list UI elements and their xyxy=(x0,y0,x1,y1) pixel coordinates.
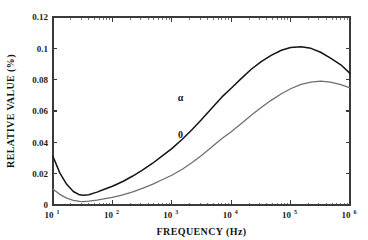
y-axis-title: RELATIVE VALUE (%) xyxy=(5,54,17,168)
x-tick-label-exponent: 1 xyxy=(57,209,60,215)
x-tick-label-exponent: 2 xyxy=(116,209,119,215)
y-tick-label: 0.02 xyxy=(32,169,48,179)
relative-value-vs-frequency-chart: 101102103104105106 00.020.040.060.080.10… xyxy=(0,0,368,240)
x-tick-label-exponent: 3 xyxy=(175,209,178,215)
x-tick-label-base: 10 xyxy=(342,210,352,220)
x-tick-label-exponent: 4 xyxy=(235,209,238,215)
x-axis-title: FREQUENCY (Hz) xyxy=(157,226,247,238)
y-tick-label: 0.04 xyxy=(32,138,48,148)
x-tick-label-base: 10 xyxy=(223,210,233,220)
y-tick-label: 0.12 xyxy=(32,12,48,22)
chart-background xyxy=(0,0,368,240)
x-tick-label-exponent: 6 xyxy=(354,209,357,215)
y-tick-label: 0.08 xyxy=(32,75,48,85)
y-tick-label: 0.06 xyxy=(32,106,48,116)
x-tick-label-base: 10 xyxy=(45,210,55,220)
x-tick-label-base: 10 xyxy=(282,210,292,220)
x-tick-label-base: 10 xyxy=(104,210,114,220)
x-tick-label-exponent: 5 xyxy=(294,209,297,215)
x-tick-label-base: 10 xyxy=(163,210,173,220)
y-tick-label: 0.1 xyxy=(37,44,49,54)
chart-figure: 101102103104105106 00.020.040.060.080.10… xyxy=(0,0,368,240)
curve-label-zero: 0 xyxy=(178,129,183,140)
y-tick-label: 0 xyxy=(44,200,49,210)
curve-label-alpha: α xyxy=(178,92,184,103)
